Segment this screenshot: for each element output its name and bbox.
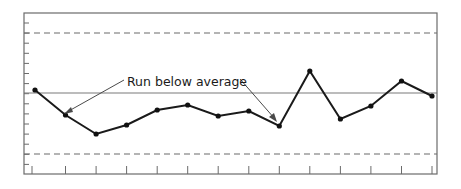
data-point [338,116,343,121]
arrow-left-line [67,80,124,112]
data-point [277,123,282,128]
control-chart: Run below average [0,0,461,189]
left-axis-ticks [24,23,29,164]
data-point [429,93,434,98]
bottom-axis-ticks [32,166,432,174]
data-point [94,131,99,136]
data-point [32,87,37,92]
data-point [185,102,190,107]
data-point [216,113,221,118]
data-point [368,103,373,108]
data-point [307,68,312,73]
annotation-label: Run below average [127,74,247,89]
data-point [399,78,404,83]
arrow-left-head-icon [64,107,73,114]
data-point [124,122,129,127]
data-point [246,108,251,113]
data-point [155,107,160,112]
